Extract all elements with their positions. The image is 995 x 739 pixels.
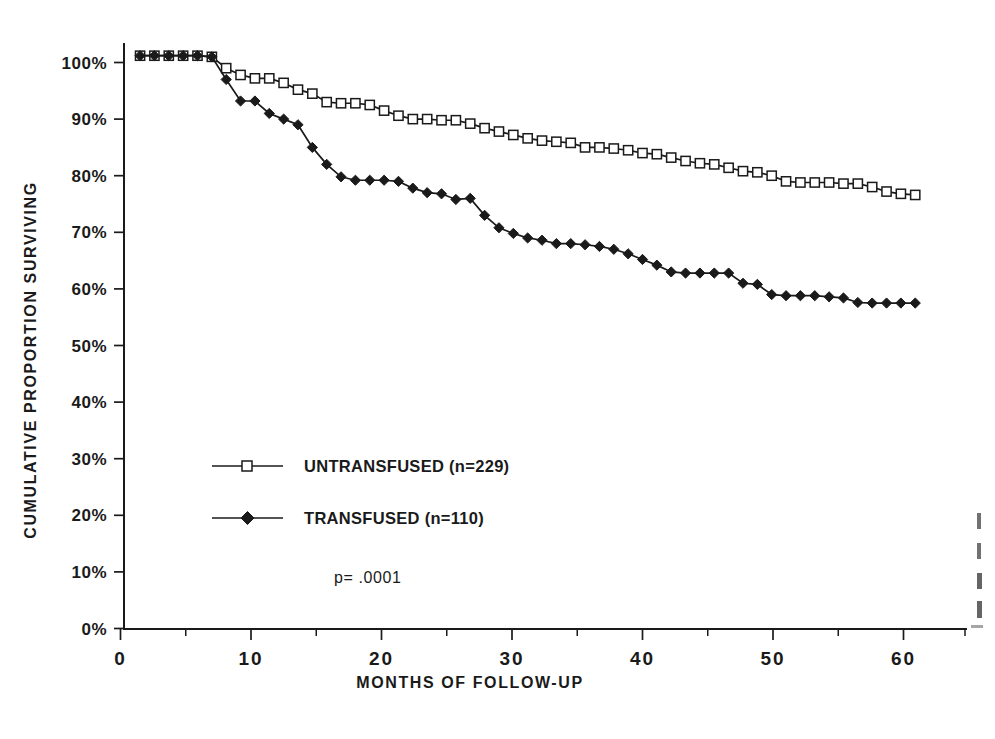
data-point-marker [595,143,604,152]
data-point-marker [423,115,432,124]
data-point-marker [265,74,274,83]
data-point-marker [867,298,877,308]
legend-label-untransfused: UNTRANSFUSED (n=229) [304,457,509,475]
data-point-marker [609,244,619,254]
x-tick-label: 30 [499,648,524,669]
data-point-marker [523,134,532,143]
x-tick-label: 20 [369,648,394,669]
chart-canvas: 0%10%20%30%40%50%60%70%80%90%100% 010203… [0,0,995,739]
y-tick-label: 60% [71,280,107,299]
data-point-marker [767,171,776,180]
y-tick-label: 10% [71,563,107,582]
data-point-marker [480,124,489,133]
data-point-marker [824,292,834,302]
y-axis-ticks [114,63,124,629]
x-tick-label: 10 [238,648,263,669]
data-point-marker [753,168,762,177]
data-point-marker [552,137,561,146]
data-point-marker [911,190,920,199]
y-tick-label: 70% [71,223,107,242]
data-point-marker [580,240,590,250]
data-point-marker [709,268,719,278]
data-point-marker [365,175,375,185]
data-point-marker [451,116,460,125]
data-point-marker [509,130,518,139]
data-point-marker [250,74,259,83]
data-point-marker [350,175,360,185]
data-point-marker [781,291,791,301]
data-point-marker [738,167,747,176]
data-point-marker [666,267,676,277]
y-tick-label: 30% [71,450,107,469]
data-point-marker [652,150,661,159]
data-point-marker [235,96,245,106]
data-point-marker [881,298,891,308]
survival-curve-figure: 0%10%20%30%40%50%60%70%80%90%100% 010203… [0,0,995,739]
data-point-marker [896,298,906,308]
p-value-annotation: p= .0001 [334,569,402,586]
data-point-marker [896,189,905,198]
data-point-marker [667,153,676,162]
data-point-marker [466,119,475,128]
series-untransfused [135,51,919,199]
data-point-marker [393,176,403,186]
data-point-marker [408,115,417,124]
x-tick-label: 40 [630,648,655,669]
x-axis-tick-labels: 0102030405060 [114,648,916,669]
y-tick-label: 40% [71,393,107,412]
data-point-marker [681,156,690,165]
data-point-marker [781,177,790,186]
legend-item-untransfused: UNTRANSFUSED (n=229) [212,457,509,475]
y-tick-label: 20% [71,506,107,525]
data-point-marker [508,228,518,238]
data-point-marker [724,163,733,172]
data-point-marker [882,187,891,196]
data-point-marker [437,116,446,125]
data-point-marker [379,175,389,185]
data-point-marker [839,179,848,188]
data-point-marker [279,78,288,87]
data-point-marker [222,64,231,73]
data-point-marker [236,70,245,79]
x-axis-minor-ticks [186,629,965,636]
data-point-marker [365,100,374,109]
data-point-marker [853,179,862,188]
data-point-marker [680,268,690,278]
data-point-marker [796,178,805,187]
x-axis-title: MONTHS OF FOLLOW-UP [356,674,583,691]
data-point-marker [594,241,604,251]
data-point-marker [351,99,360,108]
data-point-marker [451,194,461,204]
page-edge-text-artifact [971,513,983,628]
data-point-marker [566,239,576,249]
data-point-marker [652,260,662,270]
filled-diamond-icon [241,512,254,525]
data-point-marker [308,89,317,98]
data-point-marker [537,136,546,145]
y-tick-label: 0% [81,620,107,639]
data-point-marker [868,182,877,191]
data-point-marker [293,85,302,94]
data-point-marker [537,235,547,245]
data-point-marker [609,144,618,153]
data-point-marker [436,189,446,199]
y-axis-tick-labels: 0%10%20%30%40%50%60%70%80%90%100% [62,54,107,639]
chart-legend: UNTRANSFUSED (n=229) TRANSFUSED (n=110) [212,457,509,527]
data-point-marker [494,127,503,136]
data-point-marker [322,98,331,107]
data-point-marker [380,106,389,115]
x-tick-label: 60 [891,648,916,669]
data-point-marker [293,120,303,130]
y-tick-label: 50% [71,337,107,356]
x-tick-label: 50 [760,648,785,669]
data-point-marker [695,268,705,278]
open-square-icon [242,461,252,471]
data-point-marker [638,148,647,157]
data-point-marker [394,111,403,120]
data-point-marker [422,188,432,198]
legend-label-transfused: TRANSFUSED (n=110) [304,509,484,527]
data-point-marker [910,298,920,308]
data-point-marker [523,233,533,243]
data-point-marker [637,254,647,264]
data-point-marker [624,146,633,155]
